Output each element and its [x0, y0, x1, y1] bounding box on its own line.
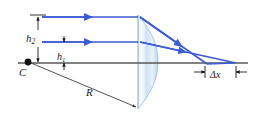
incident-rays — [42, 17, 138, 42]
plano-convex-lens — [138, 15, 158, 109]
label-radius: R — [86, 87, 93, 98]
optics-diagram-figure: h2 h1 C R Δx — [0, 0, 253, 119]
center-of-curvature-point — [25, 59, 32, 66]
dimension-delta-x — [194, 66, 247, 78]
label-h2: h2 — [26, 33, 35, 46]
label-h1: h1 — [57, 52, 65, 64]
label-h2-subscript: 2 — [32, 37, 36, 46]
label-center-of-curvature: C — [19, 67, 26, 78]
refracted-ray-upper-tail — [207, 63, 233, 64]
label-delta-variable: x — [216, 69, 220, 80]
label-h1-subscript: 1 — [62, 56, 65, 63]
label-delta-x: Δx — [210, 70, 220, 80]
lens-glass-shape — [138, 15, 158, 109]
ray-diagram-canvas — [0, 0, 253, 119]
radius-line — [31, 63, 136, 107]
